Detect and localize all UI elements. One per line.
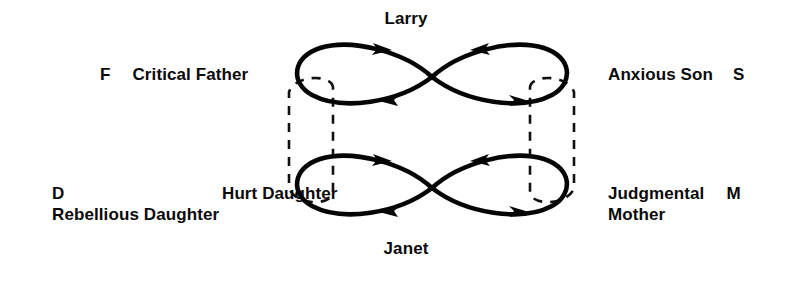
bottom-left-lower-arrow-icon (379, 206, 399, 217)
ego-state-letter-d: D (52, 183, 222, 204)
top-left-lower-arrow-icon (379, 95, 399, 106)
diagram-canvas: Larry Janet FCritical Father Anxious Son… (0, 0, 804, 281)
ego-state-letter-s: S (733, 64, 744, 85)
role-label-hurt-daughter: Hurt Daughter (222, 184, 338, 203)
ego-state-letter-f: F (100, 64, 110, 85)
role-bottom-right-line1: JudgmentalM (608, 183, 741, 204)
role-top-left: FCritical Father (100, 64, 248, 85)
top-right-lower-arrow-icon (509, 95, 529, 106)
person-label-janet: Janet (384, 238, 429, 259)
top-left-upper-arrow-icon (372, 43, 392, 55)
role-bottom-left: DHurt DaughterRebellious Daughter (52, 183, 338, 225)
role-label-anxious-son: Anxious Son (608, 65, 713, 84)
role-label-rebellious-daughter: Rebellious Daughter (52, 204, 338, 225)
top-right-upper-arrow-icon (470, 43, 490, 55)
ego-state-letter-m: M (726, 183, 740, 204)
bottom-right-upper-arrow-icon (470, 154, 490, 166)
right-dashed-connector (530, 78, 574, 202)
role-label-mother: Mother (608, 204, 741, 225)
role-label-critical-father: Critical Father (132, 65, 248, 84)
bottom-right-lower-arrow-icon (509, 206, 529, 217)
bottom-right-lobe-path (432, 156, 567, 214)
top-right-lobe-path (432, 45, 567, 103)
person-label-larry: Larry (384, 8, 427, 29)
top-left-lobe-path (297, 45, 432, 103)
role-bottom-right: JudgmentalMMother (608, 183, 741, 225)
top-figure-eight (297, 43, 567, 106)
role-label-judgmental: Judgmental (608, 184, 704, 203)
bottom-left-upper-arrow-icon (372, 154, 392, 166)
role-bottom-left-line1: DHurt Daughter (52, 183, 338, 204)
role-top-right: Anxious SonS (608, 64, 744, 85)
